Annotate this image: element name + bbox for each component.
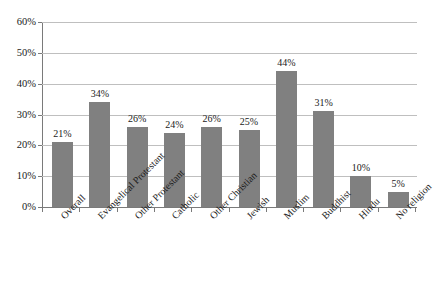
x-axis-tick	[266, 208, 267, 212]
gridline	[42, 53, 417, 54]
bar	[89, 102, 110, 207]
gridline	[42, 22, 417, 23]
x-axis-tick	[378, 208, 379, 212]
bar-value-label: 26%	[117, 114, 157, 124]
bar-value-label: 21%	[43, 129, 83, 139]
y-axis-tick-label: 10%	[0, 171, 36, 182]
x-axis-tick	[79, 208, 80, 212]
bar-value-label: 44%	[266, 58, 306, 68]
plot-area: 21%34%26%24%26%25%44%31%10%5%	[42, 22, 417, 207]
x-axis-tick	[117, 208, 118, 212]
bar	[313, 111, 334, 207]
y-axis-tick-label: 50%	[0, 48, 36, 59]
y-axis-tick-label: 30%	[0, 110, 36, 121]
x-axis-tick	[340, 208, 341, 212]
bar	[201, 127, 222, 207]
y-axis-tick-label: 0%	[0, 202, 36, 213]
y-axis-tick-label: 60%	[0, 17, 36, 28]
bar-value-label: 5%	[378, 179, 418, 189]
y-axis-tick-label: 40%	[0, 79, 36, 90]
x-axis-tick	[229, 208, 230, 212]
bar-value-label: 34%	[80, 89, 120, 99]
x-axis-tick	[415, 208, 416, 212]
bar-value-label: 26%	[192, 114, 232, 124]
x-axis-tick	[154, 208, 155, 212]
bar-value-label: 24%	[154, 120, 194, 130]
x-axis-tick	[303, 208, 304, 212]
bar-value-label: 10%	[341, 163, 381, 173]
gridline	[42, 84, 417, 85]
bar	[52, 142, 73, 207]
bar	[276, 71, 297, 207]
x-axis-tick	[42, 208, 43, 212]
x-axis-tick	[191, 208, 192, 212]
bar	[239, 130, 260, 207]
y-axis-tick-label: 20%	[0, 140, 36, 151]
bar-value-label: 31%	[304, 98, 344, 108]
bar-value-label: 25%	[229, 117, 269, 127]
